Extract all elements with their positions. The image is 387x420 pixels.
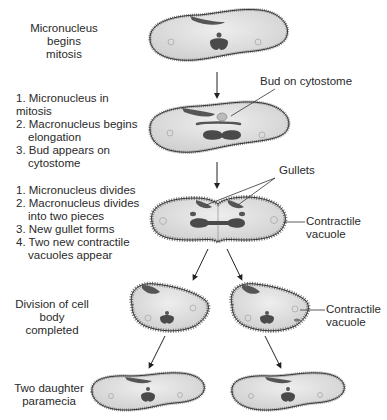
contractile-vacuole-callout-2: Contractile vacuole — [326, 303, 381, 329]
stage1-label-line2: mitosis — [14, 48, 114, 61]
stage4-label-line2: body completed — [12, 311, 92, 337]
stage3-steps: 1. Micronucleus divides 2. Macronucleus … — [16, 184, 146, 262]
cell-stage4-right — [231, 284, 308, 331]
arrow-icon — [265, 336, 280, 366]
stage3-step-2-cont: into two pieces — [16, 210, 146, 223]
cell-daughter-right — [232, 373, 344, 410]
stage3-step-2: 2. Macronucleus divides — [16, 197, 146, 210]
gullets-callout-label: Gullets — [279, 164, 315, 177]
arrow-icon — [150, 336, 165, 366]
micronucleus — [217, 33, 222, 38]
stage3-step-4: 4. Two new contractile — [16, 236, 146, 249]
stage2-step-3-cont: cytostome — [16, 157, 146, 170]
stage2-step-1: 1. Micronucleus in mitosis — [16, 92, 146, 118]
cv-callout-1-line1: Contractile — [306, 215, 361, 228]
stage2-step-2: 2. Macronucleus begins — [16, 118, 146, 131]
cv-callout-1-line2: vacuole — [306, 228, 361, 241]
cell-stage2 — [150, 102, 289, 152]
arrow-icon — [227, 249, 241, 278]
stage1-label: Micronucleus begins mitosis — [14, 22, 114, 61]
cell-stage3 — [152, 197, 286, 242]
cv-callout-2-line2: vacuole — [326, 316, 381, 329]
bud-callout-label: Bud on cytostome — [260, 75, 352, 88]
bud — [217, 113, 227, 121]
stage5-label: Two daughter paramecia — [14, 382, 84, 408]
stage3-step-1: 1. Micronucleus divides — [16, 184, 146, 197]
stage4-label-line1: Division of cell — [12, 298, 92, 311]
stage2-step-2-cont: elongation — [16, 131, 146, 144]
contractile-vacuole-callout-1: Contractile vacuole — [306, 215, 361, 241]
stage3-step-3: 3. New gullet forms — [16, 223, 146, 236]
stage1-label-line1: Micronucleus begins — [14, 22, 114, 48]
stage2-step-3: 3. Bud appears on — [16, 144, 146, 157]
cell-stage1 — [150, 9, 288, 60]
cell-stage4-left — [131, 284, 208, 331]
stage3-step-4-cont: vacuoles appear — [16, 249, 146, 262]
cell-daughter-left — [92, 373, 204, 410]
cv-callout-2-line1: Contractile — [326, 303, 381, 316]
stage4-label: Division of cell body completed — [12, 298, 92, 337]
stage2-steps: 1. Micronucleus in mitosis 2. Macronucle… — [16, 92, 146, 170]
stage5-label-line1: Two daughter — [14, 382, 84, 395]
stage5-label-line2: paramecia — [14, 395, 84, 408]
arrow-icon — [194, 249, 208, 278]
